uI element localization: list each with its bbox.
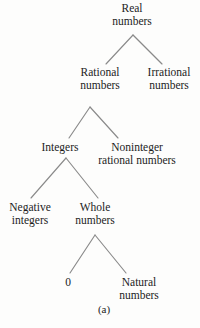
edge-rational-to-integers xyxy=(69,107,90,138)
node-irrational-numbers-line1: Irrational xyxy=(148,66,191,79)
node-rational-numbers: Rational numbers xyxy=(80,66,120,92)
node-negative-integers-line2: integers xyxy=(9,214,51,227)
node-whole-numbers-line1: Whole xyxy=(75,201,115,214)
node-whole-numbers: Whole numbers xyxy=(75,201,115,227)
node-noninteger-line2: rational numbers xyxy=(98,154,176,167)
node-real-numbers: Real numbers xyxy=(112,2,152,28)
edge-integers-to-negative xyxy=(31,158,66,198)
number-classification-diagram: Real numbers Rational numbers Irrational… xyxy=(0,0,200,328)
figure-caption: (a) xyxy=(98,303,110,316)
node-rational-numbers-line2: numbers xyxy=(80,79,120,92)
node-noninteger-rational-numbers: Noninteger rational numbers xyxy=(98,141,176,167)
edge-whole-to-natural xyxy=(95,235,126,273)
node-noninteger-line1: Noninteger xyxy=(98,141,176,154)
node-real-numbers-line2: numbers xyxy=(112,15,152,28)
node-real-numbers-line1: Real xyxy=(112,2,152,15)
edge-integers-to-whole xyxy=(66,158,98,198)
node-natural-numbers: Natural numbers xyxy=(119,276,159,302)
node-natural-numbers-line2: numbers xyxy=(119,289,159,302)
node-whole-numbers-line2: numbers xyxy=(75,214,115,227)
node-negative-integers: Negative integers xyxy=(9,201,51,227)
node-irrational-numbers: Irrational numbers xyxy=(148,66,191,92)
node-negative-integers-line1: Negative xyxy=(9,201,51,214)
node-zero-line1: 0 xyxy=(65,276,71,289)
node-zero: 0 xyxy=(65,276,71,289)
node-irrational-numbers-line2: numbers xyxy=(148,79,191,92)
node-rational-numbers-line1: Rational xyxy=(80,66,120,79)
node-integers-line1: Integers xyxy=(41,141,78,154)
edge-rational-to-noninteger xyxy=(90,107,118,138)
edge-real-to-rational xyxy=(106,35,133,64)
node-integers: Integers xyxy=(41,141,78,154)
edge-real-to-irrational xyxy=(133,35,162,64)
edge-whole-to-zero xyxy=(70,235,95,273)
node-natural-numbers-line1: Natural xyxy=(119,276,159,289)
